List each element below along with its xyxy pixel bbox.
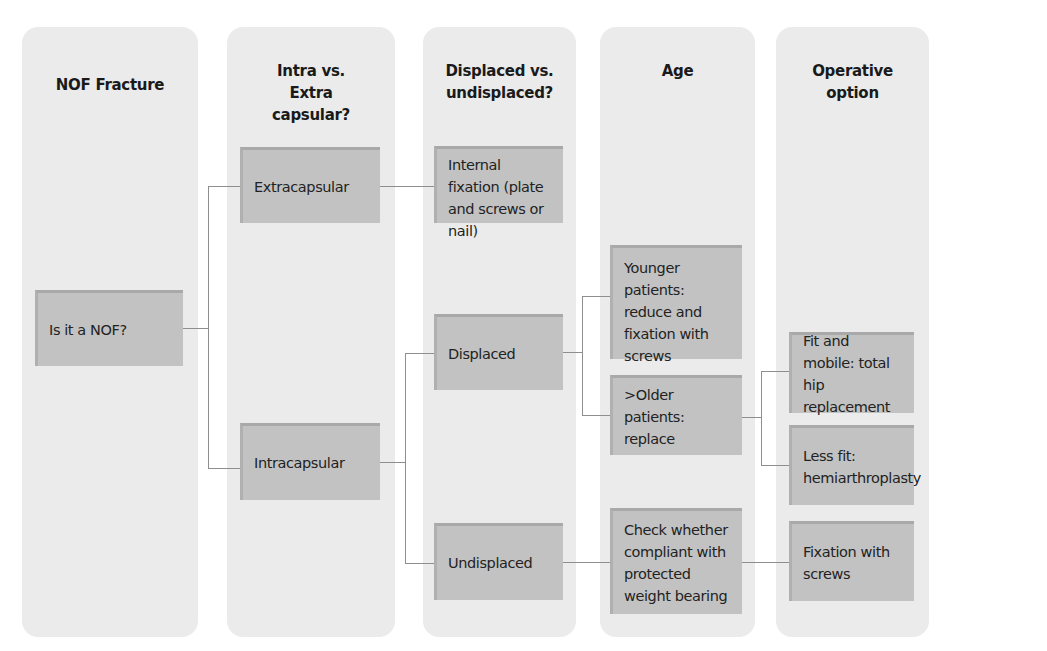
node-intracapsular: Intracapsular [240,423,380,500]
column-title: Intra vs. Extra capsular? [227,60,395,126]
column-title: NOF Fracture [22,74,198,96]
connector [405,353,435,354]
connector [741,562,791,563]
connector [761,371,791,372]
node-label: Younger patients: reduce and fixation wi… [624,257,732,367]
node-label: Fit and mobile: total hip replacement [803,330,904,418]
node-internal-fixation: Internal fixation (plate and screws or n… [434,146,563,223]
column-title: Operative option [776,60,929,104]
connector [208,186,240,187]
node-check-compliant: Check whether compliant with protected w… [610,508,742,614]
connector [208,186,209,469]
node-undisplaced: Undisplaced [434,523,563,600]
node-label: Displaced [448,343,515,365]
node-label: Intracapsular [254,452,344,474]
node-label: >Older patients: replace [624,384,732,450]
node-fixation-screws: Fixation with screws [789,521,914,601]
connector [562,562,612,563]
connector [208,468,240,469]
node-label: Check whether compliant with protected w… [624,519,732,607]
connector [761,465,791,466]
connector [582,415,612,416]
node-label: Extracapsular [254,176,349,198]
connector [582,296,583,416]
node-label: Fixation with screws [803,541,904,585]
column-title: Age [600,60,755,82]
connector [380,462,405,463]
node-label: Less fit: hemiarthroplasty [803,445,921,489]
node-older-patients: >Older patients: replace [610,375,742,455]
node-label: Internal fixation (plate and screws or n… [448,154,553,242]
connector [380,186,435,187]
node-fit-mobile: Fit and mobile: total hip replacement [789,332,914,413]
connector [562,352,582,353]
connector [405,563,435,564]
connector [405,353,406,564]
node-younger-patients: Younger patients: reduce and fixation wi… [610,245,742,359]
node-extracapsular: Extracapsular [240,147,380,223]
column-capsular: Intra vs. Extra capsular? [227,27,395,637]
column-title: Displaced vs. undisplaced? [423,60,576,104]
node-less-fit: Less fit: hemiarthroplasty [789,425,914,505]
node-is-nof: Is it a NOF? [35,290,183,366]
connector [761,371,762,466]
node-displaced: Displaced [434,314,563,390]
node-label: Undisplaced [448,552,532,574]
node-label: Is it a NOF? [49,319,127,341]
connector [741,417,761,418]
connector [183,328,208,329]
connector [582,296,612,297]
